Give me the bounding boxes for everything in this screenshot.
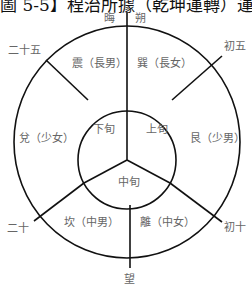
label-dui: 兌（少女）	[19, 133, 74, 144]
label-zhen: 震（長男）	[72, 58, 127, 69]
label-gen: 艮（少男）	[190, 133, 245, 144]
label-xia-xun: 下旬	[93, 124, 115, 135]
label-chu-shi: 初十	[224, 222, 246, 233]
label-li: 離（中女）	[140, 217, 195, 228]
label-er-shi-wu: 二十五	[8, 45, 41, 56]
label-xun: 巽（長女）	[137, 58, 192, 69]
label-wang: 望	[124, 274, 135, 285]
label-kan: 坎（中男）	[64, 217, 119, 228]
label-shang-xun: 上旬	[146, 124, 168, 135]
label-hui: 晦	[104, 13, 115, 24]
label-er-shi: 二十	[7, 223, 29, 234]
label-shuo: 朔	[135, 13, 146, 24]
label-chu-wu: 初五	[224, 41, 246, 52]
label-zhong-xun: 中旬	[118, 177, 140, 188]
